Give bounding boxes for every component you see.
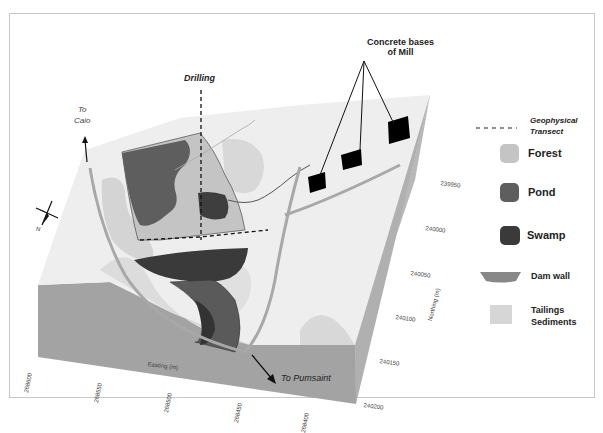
legend-dam-wall-symbol	[480, 272, 521, 283]
legend-tailings-line2: Sediments	[531, 316, 577, 328]
legend-transect-label: Geophysical Transect	[530, 115, 578, 137]
compass-icon	[36, 201, 58, 225]
legend-swamp-swatch	[500, 226, 520, 245]
to-pumsaint-label: To Pumsaint	[281, 373, 331, 383]
concrete-bases-label: Concrete bases of Mill	[367, 37, 434, 57]
legend-pond-swatch	[500, 183, 519, 202]
easting-tick-4: 268400	[300, 412, 310, 433]
legend-transect-line2: Transect	[530, 126, 578, 137]
drilling-label: Drilling	[184, 73, 215, 83]
concrete-bases-line2: of Mill	[367, 47, 434, 57]
legend-tailings-line1: Tailings	[531, 304, 577, 316]
pond-small	[198, 192, 229, 220]
concrete-bases-line1: Concrete bases	[367, 37, 434, 47]
legend-forest-label: Forest	[528, 147, 562, 160]
legend-tailings-swatch	[490, 305, 512, 324]
legend-swamp-label: Swamp	[527, 229, 566, 242]
legend-forest-swatch	[500, 144, 519, 163]
to-caio-arrowhead	[82, 136, 88, 143]
to-caio-line1: To	[74, 104, 90, 115]
legend-tailings-label: Tailings Sediments	[531, 304, 577, 328]
to-caio-line2: Caio	[74, 115, 90, 126]
compass-north-label: N	[36, 226, 40, 232]
legend-dam-wall-label: Dam wall	[531, 271, 570, 281]
legend-transect-line1: Geophysical	[530, 115, 578, 126]
to-caio-label: To Caio	[74, 104, 90, 126]
legend-pond-label: Pond	[528, 186, 556, 199]
